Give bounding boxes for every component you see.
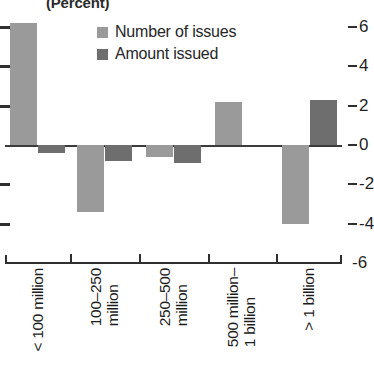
bar-number-of-issues-1 (77, 145, 104, 212)
y-tick-right--4 (348, 223, 357, 225)
y-tick-right-4 (348, 65, 357, 67)
category-label-3: 500 million–1 billion (225, 268, 258, 347)
y-tick-label-4: 4 (359, 57, 368, 74)
y-tick-right-2 (348, 105, 357, 107)
bar-number-of-issues-2 (146, 145, 173, 157)
y-tick-left-4 (0, 65, 10, 68)
y-tick-label--2: -2 (359, 175, 374, 192)
bar-number-of-issues-4 (282, 145, 309, 224)
x-axis-line (5, 262, 342, 264)
y-tick-label--6: -6 (352, 254, 367, 271)
bar-amount-issued-1 (105, 145, 132, 161)
plot-area (5, 27, 342, 263)
category-label-1: 100–250million (88, 268, 121, 326)
category-divider-1 (70, 254, 72, 264)
category-label-4: > 1 billion (301, 268, 318, 331)
bar-amount-issued-4 (310, 100, 337, 145)
y-tick-right-6 (348, 26, 357, 28)
y-tick-label--4: -4 (359, 215, 374, 232)
category-divider-3 (208, 254, 210, 264)
y-tick-left--4 (0, 223, 10, 226)
bar-amount-issued-0 (38, 145, 65, 153)
category-divider-2 (139, 254, 141, 264)
category-label-2: 250–500million (157, 268, 190, 326)
y-tick-label-2: 2 (359, 97, 368, 114)
y-tick-label-6: 6 (359, 18, 368, 35)
axis-end-left (5, 255, 7, 264)
y-tick-left-2 (0, 105, 10, 108)
y-tick-left-6 (0, 26, 10, 29)
y-tick-right--2 (348, 183, 357, 185)
y-tick-left--2 (0, 183, 10, 186)
category-label-0: < 100 million (30, 268, 47, 352)
bar-number-of-issues-0 (10, 23, 37, 145)
y-tick-label-0: 0 (359, 136, 368, 153)
bar-number-of-issues-3 (215, 102, 242, 145)
bar-amount-issued-2 (174, 145, 201, 163)
axis-end-right (340, 255, 342, 264)
chart-title: (Percent) (46, 0, 109, 11)
y-tick-right-0 (348, 144, 357, 146)
category-divider-4 (276, 254, 278, 264)
